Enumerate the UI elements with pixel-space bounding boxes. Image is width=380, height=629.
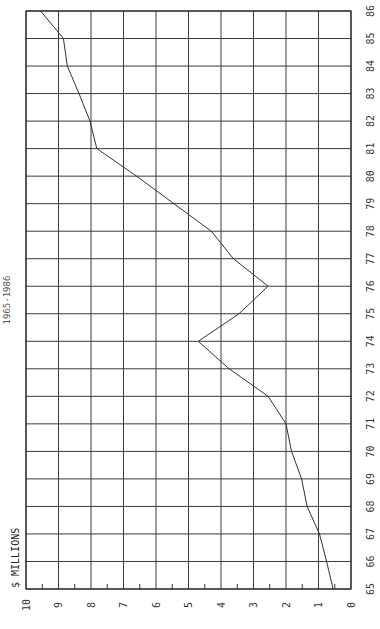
year-label: 66 [365,555,376,567]
chart-title: 1965-1986 [2,276,12,325]
value-label: 9 [53,602,64,608]
year-label: 82 [365,115,376,127]
line-chart: 6566676869707172737475767778798081828384… [0,0,380,629]
year-label: 75 [365,308,376,320]
value-label: 1 [313,602,324,608]
year-label: 76 [365,280,376,292]
year-label: 81 [365,143,376,155]
value-axis-labels: 012345678910 [21,599,357,611]
year-label: 85 [365,33,376,45]
value-label: 7 [118,602,129,608]
year-label: 80 [365,170,376,182]
year-label: 84 [365,60,376,72]
value-label: 0 [346,602,357,608]
year-label: 77 [365,253,376,265]
year-label: 78 [365,225,376,237]
year-label: 74 [365,335,376,347]
data-line [41,11,334,589]
value-label: 3 [248,602,259,608]
value-label: 10 [21,599,32,611]
year-label: 83 [365,88,376,100]
year-label: 72 [365,390,376,402]
year-label: 68 [365,500,376,512]
value-label: 8 [86,602,97,608]
year-label: 69 [365,473,376,485]
grid [26,11,351,589]
year-label: 70 [365,445,376,457]
value-label: 4 [216,602,227,608]
year-label: 65 [365,583,376,595]
year-label: 67 [365,528,376,540]
year-axis-labels: 6566676869707172737475767778798081828384… [365,5,376,595]
year-label: 79 [365,198,376,210]
y-axis-title: $ MILLIONS [10,528,21,588]
year-label: 71 [365,418,376,430]
year-label: 73 [365,363,376,375]
year-label: 86 [365,5,376,17]
value-label: 2 [281,602,292,608]
value-label: 6 [151,602,162,608]
value-label: 5 [183,602,194,608]
